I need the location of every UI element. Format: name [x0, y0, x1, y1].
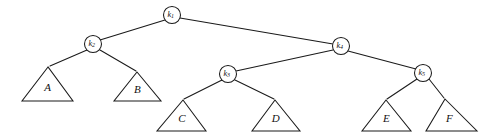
subtree-label-c: C: [178, 112, 186, 124]
tree-node-k1: k1: [164, 7, 181, 24]
tree-node-k5: k5: [415, 65, 432, 82]
tree-node-k3: k3: [220, 66, 237, 83]
node-label-subscript-k1: 1: [171, 14, 174, 20]
tree-edge-k3-D: [235, 80, 274, 99]
subtree-label-e: E: [382, 112, 390, 124]
subtrees-group: ABCDEF: [22, 67, 477, 131]
tree-edge-k4-k5: [348, 51, 416, 69]
node-label-subscript-k4: 4: [340, 45, 343, 51]
tree-node-k4: k4: [333, 38, 350, 55]
subtree-label-a: A: [43, 81, 51, 93]
tree-edge-k3-C: [184, 80, 222, 99]
tree-edge-k4-k3: [236, 50, 333, 71]
tree-edge-k2-B: [100, 50, 136, 71]
node-label-subscript-k5: 5: [422, 72, 425, 78]
tree-edge-k5-E: [387, 79, 417, 99]
tree-edge-k1-k2: [100, 20, 165, 40]
node-label-subscript-k3: 3: [226, 73, 230, 79]
nodes-group: k1k2k4k3k5: [85, 7, 432, 83]
tree-diagram-canvas: ABCDEF k1k2k4k3k5: [0, 0, 500, 138]
tree-edge-k5-F: [429, 79, 444, 98]
subtree-label-d: D: [271, 112, 280, 124]
node-label-subscript-k2: 2: [92, 43, 95, 49]
subtree-label-f: F: [445, 112, 453, 124]
subtree-label-b: B: [134, 83, 141, 95]
tree-edge-k2-A: [50, 50, 87, 66]
tree-node-k2: k2: [85, 36, 102, 53]
tree-diagram-figure: ABCDEF k1k2k4k3k5: [0, 0, 500, 138]
edges-group: [50, 18, 444, 99]
tree-edge-k1-k4: [180, 18, 333, 44]
